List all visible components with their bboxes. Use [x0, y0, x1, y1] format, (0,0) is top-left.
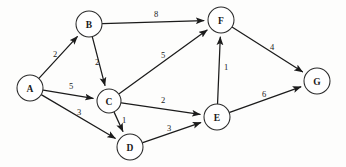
graph-node-a[interactable]: A [17, 75, 43, 101]
graph-edge-d-e [143, 123, 201, 143]
graph-edge-e-f [218, 37, 221, 103]
node-label-g: G [313, 77, 321, 87]
edge-weight-c-e: 2 [161, 95, 165, 105]
edge-weight-e-f: 1 [224, 62, 228, 72]
edge-weight-c-f: 5 [161, 50, 165, 60]
edge-weight-f-g: 4 [270, 42, 275, 52]
graph-node-c[interactable]: C [97, 89, 121, 113]
graph-node-g[interactable]: G [304, 68, 330, 94]
edge-weight-c-d: 1 [122, 115, 126, 125]
edge-weight-b-f: 8 [154, 9, 158, 19]
graph-edge-b-f [102, 21, 203, 24]
graph-edge-a-b [39, 37, 77, 78]
node-label-d: D [127, 143, 134, 153]
graph-node-b[interactable]: B [76, 11, 102, 37]
node-label-c: C [106, 97, 113, 107]
graph-node-f[interactable]: F [208, 7, 234, 33]
node-label-e: E [214, 113, 220, 123]
node-label-f: F [218, 16, 224, 26]
graph-canvas: 253825213164 ABCDEFG [0, 0, 346, 167]
nodes-layer: ABCDEFG [17, 7, 330, 160]
node-label-a: A [27, 84, 34, 94]
graph-node-e[interactable]: E [204, 104, 230, 130]
graph-edge-a-c [43, 90, 93, 98]
edge-weight-e-g: 6 [262, 89, 266, 99]
edge-weight-a-d: 3 [77, 107, 81, 117]
graph-edge-c-f [119, 30, 207, 94]
edge-weight-b-c: 2 [95, 57, 99, 67]
edge-weight-a-b: 2 [53, 49, 57, 59]
graph-diagram: 253825213164 ABCDEFG [0, 0, 346, 167]
graph-node-d[interactable]: D [117, 134, 143, 160]
edge-weight-d-e: 3 [167, 123, 171, 133]
node-label-b: B [86, 20, 93, 30]
edge-weight-a-c: 5 [69, 81, 73, 91]
graph-edge-f-g [232, 27, 302, 72]
